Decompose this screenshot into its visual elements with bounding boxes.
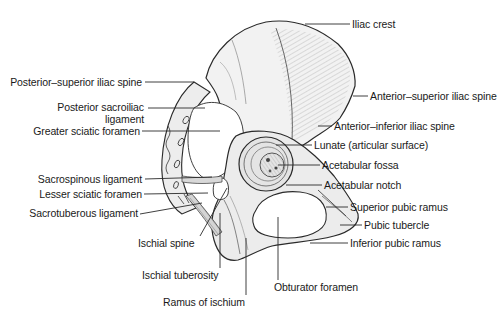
hip-bone-illustration: [0, 0, 504, 310]
label-lesser-sciatic-foramen: Lesser sciatic foramen: [0, 188, 142, 200]
label-sacrotuberous-ligament: Sacrotuberous ligament: [0, 207, 138, 219]
label-posterior-sacroiliac-ligament-line2: ligament: [0, 113, 144, 125]
label-ischial-spine: Ischial spine: [138, 237, 194, 249]
label-ischial-tuberosity: Ischial tuberosity: [142, 269, 218, 281]
label-greater-sciatic-foramen: Greater sciatic foramen: [0, 125, 140, 137]
label-acetabular-notch: Acetabular notch: [324, 179, 401, 191]
label-posterior-sacroiliac-ligament-line1: Posterior sacroiliac: [0, 101, 144, 113]
label-superior-pubic-ramus: Superior pubic ramus: [350, 201, 448, 213]
hip-bone-diagram: Posterior–superior iliac spine Posterior…: [0, 0, 504, 310]
label-obturator-foramen: Obturator foramen: [274, 281, 358, 293]
label-anterior-superior-iliac-spine: Anterior–superior iliac spine: [370, 90, 497, 102]
label-acetabular-fossa: Acetabular fossa: [322, 159, 399, 171]
label-lunate-articular-surface: Lunate (articular surface): [314, 139, 428, 151]
label-posterior-superior-iliac-spine: Posterior–superior iliac spine: [0, 76, 142, 88]
label-ramus-of-ischium: Ramus of ischium: [163, 296, 245, 308]
label-anterior-inferior-iliac-spine: Anterior–inferior iliac spine: [334, 120, 455, 132]
label-iliac-crest: Iliac crest: [352, 18, 395, 30]
label-sacrospinous-ligament: Sacrospinous ligament: [0, 173, 142, 185]
label-pubic-tubercle: Pubic tubercle: [364, 219, 429, 231]
label-inferior-pubic-ramus: Inferior pubic ramus: [350, 237, 441, 249]
